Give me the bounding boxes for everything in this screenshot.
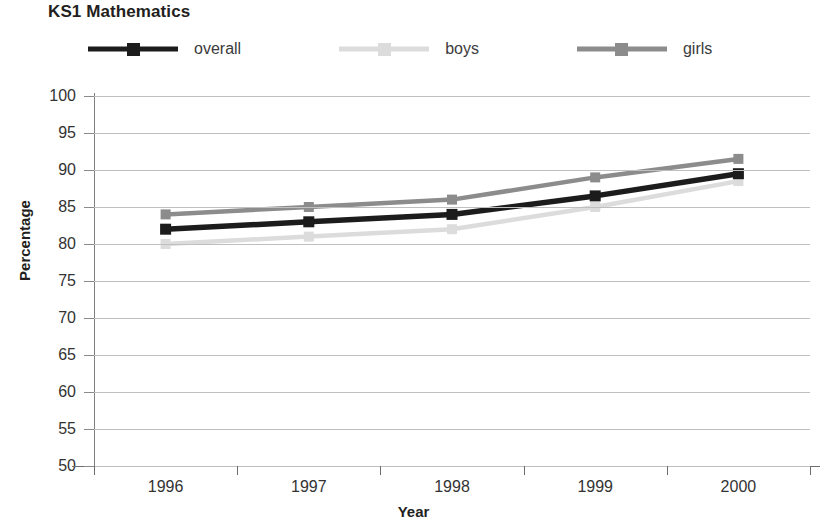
- gridline: [94, 244, 810, 245]
- data-point-marker-boys-1998: [447, 224, 457, 234]
- x-axis-tick: [237, 466, 238, 475]
- legend-key-overall: [88, 43, 178, 55]
- y-axis-tick-label: 55: [24, 421, 76, 437]
- data-point-marker-girls-1996: [161, 209, 171, 219]
- data-point-marker-overall-1999: [590, 190, 601, 201]
- y-axis-tick: [84, 392, 94, 393]
- gridline: [94, 318, 810, 319]
- data-point-marker-girls-2000: [733, 154, 743, 164]
- y-axis-tick: [84, 429, 94, 430]
- gridline: [94, 96, 810, 97]
- y-axis-tick: [84, 318, 94, 319]
- x-axis-tick: [380, 466, 381, 475]
- gridline: [94, 281, 810, 282]
- y-axis-tick: [84, 281, 94, 282]
- y-axis-tick: [84, 170, 94, 171]
- data-point-marker-girls-1998: [447, 195, 457, 205]
- y-axis-tick-label: 65: [24, 347, 76, 363]
- data-point-marker-girls-1999: [590, 172, 600, 182]
- x-axis-tick: [667, 466, 668, 475]
- legend-key-boys: [339, 43, 429, 55]
- y-axis-title: Percentage: [16, 171, 33, 311]
- x-axis-title: Year: [0, 503, 827, 520]
- data-point-marker-boys-1997: [304, 232, 314, 242]
- y-axis-tick-label: 60: [24, 384, 76, 400]
- legend-item-boys[interactable]: boys: [339, 40, 479, 58]
- chart-title: KS1 Mathematics: [48, 2, 190, 22]
- plot-area: [94, 96, 810, 466]
- y-axis-tick: [84, 96, 94, 97]
- y-axis-tick: [84, 355, 94, 356]
- legend-item-girls[interactable]: girls: [577, 40, 712, 58]
- legend-square-marker-icon: [378, 43, 391, 56]
- chart-legend: overallboysgirls: [88, 40, 712, 58]
- legend-square-marker-icon: [127, 43, 140, 56]
- x-axis-tick: [94, 466, 95, 475]
- y-axis-tick: [84, 466, 94, 467]
- chart-container: KS1 Mathematics overallboysgirls 5055606…: [0, 0, 827, 532]
- x-axis-tick-label: 2000: [721, 478, 757, 496]
- data-point-marker-overall-1996: [160, 224, 171, 235]
- gridline: [94, 355, 810, 356]
- x-axis-tick-label: 1997: [291, 478, 327, 496]
- y-axis-tick-label: 100: [24, 88, 76, 104]
- y-axis-tick: [84, 133, 94, 134]
- gridline: [94, 207, 810, 208]
- gridline: [94, 392, 810, 393]
- data-point-marker-overall-1998: [447, 209, 458, 220]
- gridline: [94, 170, 810, 171]
- legend-square-marker-icon: [615, 43, 628, 56]
- y-axis-tick-label: 50: [24, 458, 76, 474]
- x-axis-tick: [810, 466, 811, 475]
- data-point-marker-overall-1997: [303, 216, 314, 227]
- x-axis-tick-label: 1996: [148, 478, 184, 496]
- gridline: [94, 429, 810, 430]
- y-axis-tick-label: 70: [24, 310, 76, 326]
- legend-item-overall[interactable]: overall: [88, 40, 241, 58]
- x-axis-tick: [524, 466, 525, 475]
- y-axis-tick-label: 95: [24, 125, 76, 141]
- x-axis-tick-label: 1999: [577, 478, 613, 496]
- gridline: [94, 133, 810, 134]
- gridline: [94, 466, 810, 467]
- legend-label: girls: [683, 40, 712, 58]
- legend-key-girls: [577, 43, 667, 55]
- legend-label: overall: [194, 40, 241, 58]
- y-axis-tick: [84, 207, 94, 208]
- x-axis-tick-labels: 19961997199819992000: [94, 478, 810, 502]
- x-axis-tick-label: 1998: [434, 478, 470, 496]
- legend-label: boys: [445, 40, 479, 58]
- y-axis-tick: [84, 244, 94, 245]
